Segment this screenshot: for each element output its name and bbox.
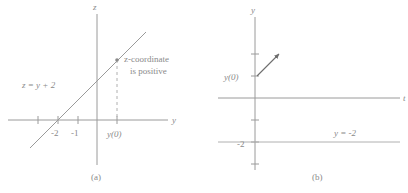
panel-b-initial-value-label: y(0) bbox=[223, 72, 239, 82]
panel-a-annotation-line2: is positive bbox=[130, 66, 167, 76]
panel-a-horizontal-axis-label: y bbox=[171, 115, 176, 125]
panel-b-vertical-axis-label: y bbox=[250, 5, 255, 15]
panel-b-equilibrium-label: y = -2 bbox=[333, 128, 357, 138]
panel-a-vertical-axis-label: z bbox=[92, 2, 97, 12]
panel-a-tick-label-minus1: -1 bbox=[71, 128, 79, 138]
panel-a-tick-label-minus2: -2 bbox=[51, 128, 59, 138]
panel-a-point-label-y0: y(0) bbox=[106, 129, 122, 139]
panel-a-annotation-line1: z-coordinate bbox=[124, 54, 169, 64]
panel-b-caption: (b) bbox=[312, 172, 323, 182]
panel-b-slope-arrow bbox=[257, 54, 279, 76]
panel-a-line-equation-label: z = y + 2 bbox=[21, 80, 56, 90]
figure-container: z y -2 -1 y(0) z = y + 2 z-coordinate is… bbox=[0, 0, 408, 193]
panel-a-caption: (a) bbox=[91, 172, 101, 182]
panel-b-plot: y t y(0) -2 y = -2 (b) bbox=[204, 0, 408, 193]
panel-b-horizontal-axis-label: t bbox=[403, 93, 406, 103]
panel-a-line-z-equals-y-plus-2 bbox=[30, 32, 146, 148]
panel-a-plot: z y -2 -1 y(0) z = y + 2 z-coordinate is… bbox=[0, 0, 204, 193]
panel-a-point-marker bbox=[115, 58, 119, 62]
panel-b-tick-label-minus2: -2 bbox=[237, 139, 245, 149]
